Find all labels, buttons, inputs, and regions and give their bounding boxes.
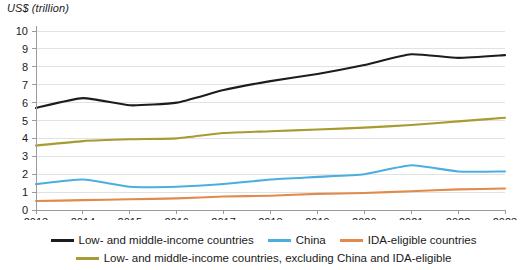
y-tick-label: 2 [22, 168, 28, 180]
y-tick-label: 3 [22, 150, 28, 162]
series-line [36, 189, 505, 202]
x-tick-label: 2023 [493, 216, 517, 220]
y-tick-label: 6 [22, 97, 28, 109]
y-tick-label: 8 [22, 61, 28, 73]
x-tick-label: 2015 [118, 216, 142, 220]
series-line [36, 54, 505, 108]
legend-item[interactable]: IDA-eligible countries [340, 234, 477, 247]
y-tick-label: 10 [16, 25, 28, 37]
x-tick-label: 2013 [24, 216, 48, 220]
legend-color-swatch-icon [51, 239, 74, 242]
line-chart-svg: 012345678910 201320142015201620172018201… [0, 20, 527, 220]
plot-area: 012345678910 201320142015201620172018201… [0, 20, 527, 220]
y-tick-marks [32, 31, 36, 210]
x-tick-label: 2014 [71, 216, 95, 220]
legend-item-label: Low- and middle-income countries [79, 234, 254, 247]
y-tick-label: 1 [22, 186, 28, 198]
legend-color-swatch-icon [76, 257, 99, 260]
y-tick-label: 5 [22, 115, 28, 127]
data-series-group [36, 54, 505, 201]
legend-item[interactable]: Low- and middle-income countries [51, 234, 254, 247]
series-line [36, 118, 505, 146]
chart-figure: US$ (trillion) 012345678910 201320142015… [0, 0, 527, 270]
legend-item[interactable]: China [268, 234, 326, 247]
legend-item-label: Low- and middle-income countries, exclud… [104, 252, 452, 265]
x-tick-labels: 2013201420152016201720182019202020212022… [24, 216, 517, 220]
legend-item[interactable]: Low- and middle-income countries, exclud… [76, 252, 452, 265]
legend-color-swatch-icon [340, 239, 363, 242]
legend-item-label: China [296, 234, 326, 247]
y-tick-label: 0 [22, 204, 28, 216]
y-axis-title: US$ (trillion) [7, 2, 69, 14]
x-tick-label: 2016 [164, 216, 188, 220]
y-tick-label: 7 [22, 79, 28, 91]
y-tick-label: 9 [22, 43, 28, 55]
x-tick-label: 2018 [258, 216, 282, 220]
x-tick-label: 2020 [352, 216, 376, 220]
x-tick-marks [36, 210, 505, 214]
x-tick-label: 2017 [211, 216, 235, 220]
legend-row-secondary: Low- and middle-income countries, exclud… [0, 249, 527, 267]
x-tick-label: 2022 [446, 216, 470, 220]
legend-color-swatch-icon [268, 239, 291, 242]
series-line [36, 165, 505, 187]
chart-legend: Low- and middle-income countriesChinaIDA… [0, 231, 527, 270]
y-tick-labels: 012345678910 [16, 25, 28, 216]
legend-row-primary: Low- and middle-income countriesChinaIDA… [0, 231, 527, 249]
legend-item-label: IDA-eligible countries [368, 234, 477, 247]
x-tick-label: 2019 [305, 216, 329, 220]
y-tick-label: 4 [22, 132, 28, 144]
x-tick-label: 2021 [399, 216, 423, 220]
